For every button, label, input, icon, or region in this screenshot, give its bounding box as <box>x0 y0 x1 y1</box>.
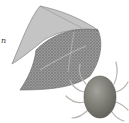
illustration <box>0 0 129 123</box>
mite-body <box>84 76 116 118</box>
leaf <box>12 6 101 90</box>
